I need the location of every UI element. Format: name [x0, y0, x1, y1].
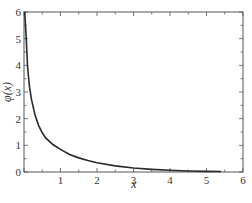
x-tick-label: 4	[167, 174, 173, 186]
line-chart: 123456 0123456 x φ(x)	[0, 0, 252, 203]
y-tick-label: 4	[16, 59, 22, 71]
y-tick-label: 1	[16, 139, 22, 151]
y-tick-label: 2	[16, 113, 22, 125]
x-tick-label: 1	[58, 174, 64, 186]
phi-curve	[25, 12, 221, 171]
y-axis-label: φ(x)	[0, 82, 14, 102]
y-tick-label: 5	[16, 33, 22, 45]
x-tick-labels: 123456	[58, 174, 247, 186]
y-tick-label: 6	[16, 6, 22, 18]
y-tick-label: 3	[16, 86, 22, 98]
x-tick-label: 2	[94, 174, 100, 186]
y-tick-labels: 0123456	[16, 6, 22, 178]
x-tick-label: 5	[204, 174, 210, 186]
x-tick-label: 6	[240, 174, 246, 186]
x-axis-label: x	[130, 177, 137, 191]
y-tick-label: 0	[16, 166, 22, 178]
